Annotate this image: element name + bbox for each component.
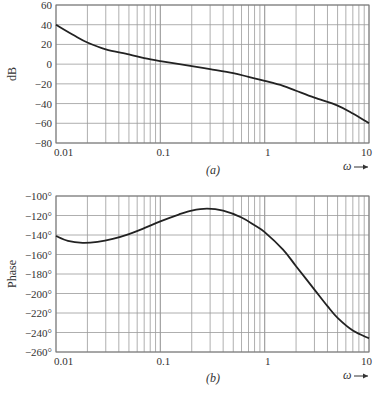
figure-caption: (b): [206, 371, 220, 385]
figure-caption: (a): [206, 163, 220, 177]
x-tick-label: 1: [265, 146, 271, 158]
y-tick-label: −200°: [25, 288, 52, 300]
arrow-head-icon: [363, 374, 368, 379]
bode-plot: 6040200−20−40−60−800.010.1110ωdB(a)−100°…: [0, 0, 389, 395]
y-tick-label: −120°: [25, 210, 52, 222]
y-tick-label: −260°: [25, 346, 52, 358]
y-tick-label: −80: [35, 137, 53, 149]
y-axis-title: dB: [5, 67, 19, 81]
y-tick-label: −60: [35, 117, 53, 129]
y-tick-label: −240°: [25, 327, 52, 339]
y-tick-label: −140°: [25, 229, 52, 241]
x-tick-label: 10: [361, 146, 373, 158]
x-tick-label: 0.01: [54, 355, 73, 367]
y-tick-label: 60: [41, 0, 53, 11]
y-axis-title: Phase: [5, 260, 19, 288]
x-tick-label: 10: [361, 355, 373, 367]
y-tick-label: −100°: [25, 190, 52, 202]
y-tick-label: −180°: [25, 268, 52, 280]
plot-frame: [56, 5, 369, 143]
y-tick-label: 40: [41, 19, 53, 31]
y-tick-label: 20: [41, 38, 53, 50]
x-tick-label: 0.1: [156, 355, 170, 367]
y-tick-label: −220°: [25, 307, 52, 319]
omega-axis-label: ω: [343, 159, 351, 173]
x-tick-label: 0.1: [156, 146, 170, 158]
y-tick-label: 0: [47, 58, 53, 70]
y-tick-label: −20: [35, 78, 53, 90]
y-tick-label: −160°: [25, 249, 52, 261]
arrow-head-icon: [363, 165, 368, 170]
x-tick-label: 1: [265, 355, 271, 367]
phase-curve: [56, 209, 369, 339]
x-tick-label: 0.01: [54, 146, 73, 158]
y-tick-label: −40: [35, 98, 53, 110]
omega-axis-label: ω: [343, 368, 351, 382]
magnitude-curve: [56, 25, 369, 124]
